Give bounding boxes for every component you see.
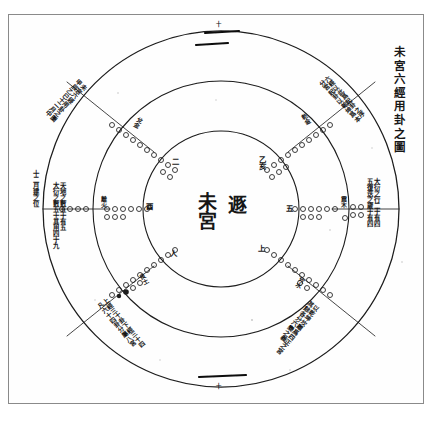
scan-speckle (59, 92, 403, 371)
page-title: 未宮六經用卦之圖 (392, 46, 404, 186)
inner-label-e: 五 (286, 205, 293, 213)
diagram-plate: 未宮六經用卦之圖 未宮 遯 乙亥 五 上 人 酉 二 乾金 震木 坎水 艮土 離… (0, 0, 442, 421)
inner-label-nw: 二 (172, 158, 179, 166)
side-note-left-inner: 天地之數五十有五 大衍之數五十其用四十九 (52, 182, 65, 256)
inner-label-ne: 乙亥 (258, 155, 266, 189)
inner-label-sw: 人 (170, 250, 177, 258)
inner-label-w: 酉 (146, 203, 153, 211)
mid-label-w: 離火 (100, 196, 106, 228)
inner-label-se: 上 (258, 245, 265, 253)
side-note-right: 大衍之行二十有四 五復迭之歲十有四 (366, 178, 379, 254)
side-note-left-outer: 十二月建之位 (32, 170, 39, 242)
scan-page: 未宮六經用卦之圖 未宮 遯 乙亥 五 上 人 酉 二 乾金 震木 坎水 艮土 離… (0, 0, 442, 421)
axis-mark-top-glyph: 十 (216, 22, 221, 28)
center-hexagram-label: 遯 (228, 196, 247, 215)
axis-mark-bottom-glyph: 十 (216, 384, 221, 390)
center-palace-label: 未宮 (196, 192, 215, 240)
mid-label-e: 震木 (340, 196, 346, 228)
yao-row-east (293, 205, 364, 221)
axis-mark-bottom (199, 375, 246, 377)
axis-mark-top-2 (196, 43, 228, 45)
